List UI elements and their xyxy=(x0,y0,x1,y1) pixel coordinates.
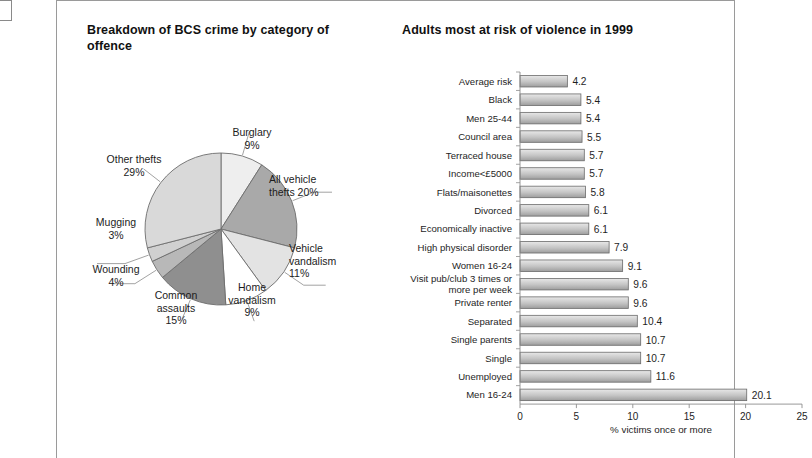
bar xyxy=(520,112,581,124)
bar-value-label: 6.1 xyxy=(594,224,608,235)
pie-slice-label-line: All vehicle xyxy=(269,173,345,186)
bar-category-label: Terraced house xyxy=(446,150,512,161)
bar-axis-title: % victims once or more xyxy=(610,424,712,435)
bar-value-label: 5.7 xyxy=(589,168,603,179)
bar xyxy=(520,371,651,383)
pie-slice-label-line: 29% xyxy=(89,166,179,179)
bar xyxy=(520,168,584,180)
pie-slice-label: Other thefts29% xyxy=(89,153,179,178)
pie-slice-label-line: vandalism xyxy=(217,294,287,307)
pie-slice-label-line: 4% xyxy=(79,276,153,289)
bar-category-label: Visit pub/club 3 times ormore per week xyxy=(410,273,512,295)
pie-slice-label-line: thefts 20% xyxy=(269,186,345,199)
bar-category-label: Divorced xyxy=(474,205,512,216)
pie-slice-label-line: assaults xyxy=(139,302,213,315)
bar-category-label: Council area xyxy=(458,131,513,142)
bar-value-label: 9.6 xyxy=(633,298,647,309)
bar xyxy=(520,352,641,364)
bar-category-label: Single parents xyxy=(451,334,513,345)
bar-value-label: 20.1 xyxy=(752,390,772,401)
bar xyxy=(520,205,589,217)
pie-slice-label-line: 9% xyxy=(217,306,287,319)
bar xyxy=(520,149,584,161)
bar-category-label: Unemployed xyxy=(458,371,512,382)
bar-category-label: Women 16-24 xyxy=(452,260,513,271)
bar xyxy=(520,131,582,143)
bar-value-label: 10.4 xyxy=(642,316,662,327)
bar-value-label: 4.2 xyxy=(572,76,586,87)
bar-chart-canvas: Average risk4.2Black5.4Men 25-445.4Counc… xyxy=(357,56,812,446)
bar-axis-tick-label: 0 xyxy=(517,411,523,422)
bar xyxy=(520,94,581,106)
bar xyxy=(520,75,567,87)
pie-slice-label-line: Other thefts xyxy=(89,153,179,166)
pie-slice-label-line: Home xyxy=(217,281,287,294)
pie-slice-label: Burglary9% xyxy=(207,126,297,151)
bar-value-label: 10.7 xyxy=(646,335,666,346)
bar-axis-tick-label: 15 xyxy=(684,411,696,422)
pie-slice-label-line: 9% xyxy=(207,139,297,152)
bar-category-label: Black xyxy=(489,94,513,105)
bar-value-label: 9.1 xyxy=(628,261,642,272)
pie-slice-label: Commonassaults15% xyxy=(139,289,213,327)
bar-category-label: Economically inactive xyxy=(420,223,512,234)
bar-category-label: Single xyxy=(485,353,512,364)
bar xyxy=(520,260,623,272)
pie-slice-label: Vehiclevandalism11% xyxy=(289,242,359,280)
bar-value-label: 5.4 xyxy=(586,113,600,124)
pie-slice-label-line: Vehicle xyxy=(289,242,359,255)
bar-category-label: Men 25-44 xyxy=(466,113,513,124)
pie-slice-label: Homevandalism9% xyxy=(217,281,287,319)
bar-chart-title: Adults most at risk of violence in 1999 xyxy=(402,22,722,38)
pie-slice-label-line: Mugging xyxy=(83,216,149,229)
bar xyxy=(520,186,585,198)
bar-category-label: Men 16-24 xyxy=(466,389,513,400)
content-panel: Breakdown of BCS crime by category of of… xyxy=(56,0,735,458)
bar-value-label: 5.7 xyxy=(589,150,603,161)
pie-slice-label-line: Wounding xyxy=(79,263,153,276)
pie-slice-label-line: vandalism xyxy=(289,255,359,268)
bar-value-label: 7.9 xyxy=(614,242,628,253)
bar xyxy=(520,242,609,254)
bar-value-label: 9.6 xyxy=(633,279,647,290)
bar-value-label: 5.8 xyxy=(590,187,604,198)
bar-axis-tick-label: 25 xyxy=(796,411,808,422)
pie-slice-label: Mugging3% xyxy=(83,216,149,241)
bar-category-label: High physical disorder xyxy=(418,242,513,253)
bar xyxy=(520,223,589,235)
bar-value-label: 10.7 xyxy=(646,353,666,364)
bar-category-label: Average risk xyxy=(459,76,512,87)
bar-category-label: Private renter xyxy=(454,297,512,308)
bar-category-label: Separated xyxy=(468,316,512,327)
pie-chart-canvas xyxy=(57,1,397,421)
bar xyxy=(520,334,641,346)
page-corner-marker xyxy=(0,0,12,21)
bar xyxy=(520,278,628,290)
pie-slice-label: All vehiclethefts 20% xyxy=(269,173,345,198)
pie-slice-label-line: Common xyxy=(139,289,213,302)
pie-slice-label-line: 11% xyxy=(289,267,359,280)
bar-value-label: 11.6 xyxy=(656,371,675,382)
bar xyxy=(520,315,637,327)
bar-value-label: 5.4 xyxy=(586,95,600,106)
bar xyxy=(520,389,747,401)
bar-category-label: Flats/maisonettes xyxy=(437,187,512,198)
bar-category-label: Income<£5000 xyxy=(448,168,512,179)
bar-axis-tick-label: 10 xyxy=(627,411,639,422)
pie-slice-label-line: 3% xyxy=(83,229,149,242)
pie-chart-figure: Breakdown of BCS crime by category of of… xyxy=(57,1,397,421)
bar-axis-tick-label: 20 xyxy=(740,411,752,422)
pie-slice-label: Wounding4% xyxy=(79,263,153,288)
bar xyxy=(520,297,628,309)
pie-slice-label-line: Burglary xyxy=(207,126,297,139)
bar-chart-figure: Average risk4.2Black5.4Men 25-445.4Counc… xyxy=(357,56,812,446)
bar-axis-tick-label: 5 xyxy=(574,411,580,422)
bar-value-label: 6.1 xyxy=(594,205,608,216)
bar-value-label: 5.5 xyxy=(587,132,601,143)
pie-slice-label-line: 15% xyxy=(139,314,213,327)
